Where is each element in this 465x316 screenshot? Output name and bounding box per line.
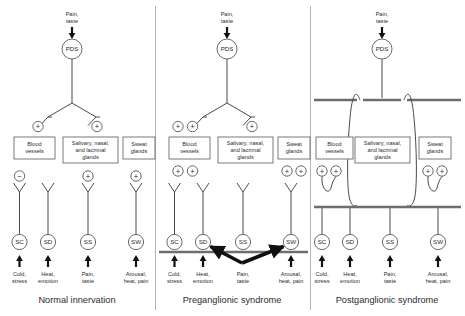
panel2-plus-above-blood-vessels-2: + [187, 121, 197, 131]
panel1-stimulus-sc: Cold, stress [12, 255, 27, 284]
panel3-plus-sign-4: + [440, 167, 445, 176]
panel2-plus-below-sweat-glands-1: + [282, 166, 292, 176]
panel3-stimulus-sd-line2: emotion [340, 278, 360, 284]
panel1-plus-below-sweat-glands: + [131, 171, 141, 181]
panel2-plus-below-sweat-glands-2: + [296, 166, 306, 176]
panel-normal-innervation: Pain, taste PDS + + Blood [12, 11, 155, 305]
panel3-neuron-sw: SW [430, 234, 445, 249]
panel1-fiber-sc [14, 183, 26, 235]
panel2-plus-sign-7: + [299, 167, 304, 176]
panel2-plus-sign-2: + [190, 122, 195, 131]
panel2-fiber-ss [237, 183, 249, 235]
panel3-stimulus-sw: Arousal, heat, pain [426, 255, 451, 284]
panel1-pds-branching [40, 59, 100, 126]
panel2-stimulus-sc-line1: Cold, [168, 271, 182, 277]
diagram-canvas: Pain, taste PDS + + Blood [0, 0, 465, 316]
panel1-neuron-sd-label: SD [44, 238, 53, 245]
panel2-caption: Preganglionic syndrome [183, 295, 282, 305]
panel2-glands-line3: glands [237, 154, 254, 160]
panel1-plus-above-glands: + [92, 121, 102, 131]
panel3-plus-below-sweat-glands-1: + [423, 166, 433, 176]
panel3-neuron-sw-label: SW [433, 238, 443, 245]
panel3-effector-blood-vessels: Blood vessels [316, 137, 353, 159]
panel3-stimulus-sc-line2: stress [315, 278, 330, 284]
panel1-neuron-sw: SW [128, 234, 143, 249]
panel1-fiber-sw [130, 183, 142, 235]
panel2-plus-below-blood-vessels-1: + [173, 166, 183, 176]
panel3-stimulus-sd-line1: Heat, [343, 271, 357, 277]
panel2-pds-branching [195, 59, 255, 126]
panel1-plus-sign-3: + [86, 172, 91, 181]
panel2-plus-sign-4: + [176, 167, 181, 176]
panel2-stimulus-sw-line2: heat, pain [279, 278, 304, 284]
panel2-stimulus-sw: Arousal, heat, pain [279, 255, 304, 284]
panel1-input-arrow-icon [69, 27, 76, 39]
panel1-stimulus-sw-line1: Arousal, [126, 271, 147, 277]
panel2-plus-sign-1: + [176, 122, 181, 131]
panel2-plus-above-glands: + [247, 121, 257, 131]
panel1-stimulus-sc-line2: stress [12, 278, 27, 284]
panel2-neuron-sd: SD [195, 234, 210, 249]
panel2-neuron-sc: SC [167, 234, 182, 249]
panel1-plus-sign-4: + [134, 172, 139, 181]
panel2-stimulus-sc-line2: stress [167, 278, 182, 284]
panel-postganglionic-syndrome: Pain, taste PDS Blood vessels Salivary, … [314, 11, 461, 305]
panel3-plus-sign-3: + [426, 167, 431, 176]
panel3-stimulus-ss-line1: Pain, [384, 271, 397, 277]
panel2-effector-glands: Salivary, nasal, and lacrimal glands [218, 137, 273, 163]
panel2-plus-sign-3: + [250, 122, 255, 131]
panel2-plus-below-blood-vessels-2: + [187, 166, 197, 176]
panel1-sweat-line2: glands [131, 148, 148, 154]
panel2-stimulus-sc: Cold, stress [167, 255, 182, 284]
panel1-glands-line1: Salivary, nasal, [72, 140, 110, 146]
panel1-glands-line2: and lacrimal [75, 147, 105, 153]
panel2-blood-vessels-line2: vessels [180, 148, 199, 154]
panel1-fiber-ss [82, 183, 94, 235]
panel2-stimulus-sd-line2: emotion [193, 278, 213, 284]
panel3-stimulus-ss-line2: taste [384, 278, 396, 284]
panel1-plus-below-glands: + [83, 171, 93, 181]
panel2-glands-line2: and lacrimal [230, 147, 260, 153]
panel2-input-label-line1: Pain, [221, 11, 234, 17]
panel-preganglionic-syndrome: Pain, taste PDS + + + [159, 11, 310, 305]
panel1-stimulus-sw: Arousal, heat, pain [124, 255, 149, 284]
panel1-effector-blood-vessels: Blood vessels [14, 137, 55, 159]
panel1-blood-vessels-line2: vessels [25, 148, 44, 154]
panel2-sweat-line1: Sweat [286, 141, 302, 147]
panel3-plus-sign-1: + [320, 167, 325, 176]
panel2-neuron-sd-label: SD [199, 238, 208, 245]
panel1-neuron-sd: SD [40, 234, 55, 249]
panel2-input-label-line2: taste [221, 18, 233, 24]
panel2-blood-vessels-line1: Blood [182, 141, 196, 147]
panel3-neuron-ss-label: SS [386, 238, 394, 245]
panel2-stimulus-sw-line1: Arousal, [281, 271, 302, 277]
panel2-pds-label: PDS [221, 45, 234, 52]
panel2-neuron-ss-label: SS [239, 238, 247, 245]
panel2-stimulus-ss-line2: taste [237, 278, 249, 284]
panel3-sweat-line1: Sweat [427, 141, 443, 147]
panel1-plus-above-blood-vessels: + [33, 121, 43, 131]
panel3-blood-vessels-line1: Blood [327, 141, 341, 147]
panel1-sweat-line1: Sweat [131, 141, 147, 147]
panel1-minus-below-blood-vessels: − [14, 171, 24, 181]
panel1-plus-sign-2: + [95, 122, 100, 131]
panel2-glands-line1: Salivary, nasal, [227, 140, 265, 146]
panel1-blood-vessels-line1: Blood [27, 141, 41, 147]
panel3-glands-line3: glands [374, 154, 391, 160]
panel2-sweat-line2: glands [286, 148, 303, 154]
panel2-plus-sign-5: + [190, 167, 195, 176]
panel2-neuron-sw-label: SW [286, 238, 296, 245]
panel3-blood-vessels-line2: vessels [325, 148, 344, 154]
panel3-stimulus-sw-line2: heat, pain [426, 278, 451, 284]
panel2-fiber-sw [285, 183, 297, 235]
panel2-plus-sign-6: + [285, 167, 290, 176]
panel1-neuron-ss-label: SS [84, 238, 92, 245]
panel1-stimulus-sd-line2: emotion [38, 278, 58, 284]
panel1-minus-sign: − [17, 172, 22, 181]
panel2-effector-blood-vessels: Blood vessels [169, 137, 210, 159]
panel1-effector-glands: Salivary, nasal, and lacrimal glands [63, 137, 118, 163]
panel3-effector-glands: Salivary, nasal, and lacrimal glands [355, 137, 410, 163]
panel3-loop-blood-vessels [322, 177, 336, 192]
panel2-stimulus-ss-line1: Pain, [237, 271, 250, 277]
panel3-neuron-sd: SD [342, 234, 357, 249]
